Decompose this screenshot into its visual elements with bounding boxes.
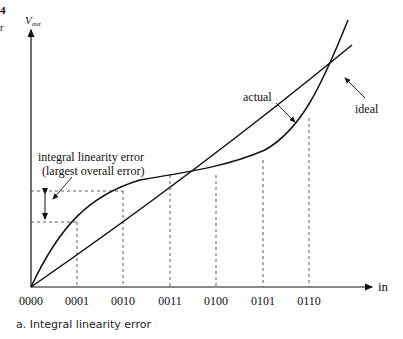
svg-text:0001: 0001	[65, 294, 89, 308]
margin-mark: 4	[0, 4, 6, 16]
ideal-pointer	[345, 78, 365, 98]
x-axis-label: in	[378, 279, 389, 294]
error-pointer	[53, 177, 72, 199]
actual-pointer	[276, 103, 295, 122]
y-axis-label: Vout	[25, 14, 42, 28]
actual-label: actual	[243, 90, 272, 104]
guide-lines	[31, 118, 309, 287]
svg-text:0000: 0000	[19, 294, 43, 308]
margin-mark: r	[0, 22, 4, 33]
svg-text:0100: 0100	[204, 294, 228, 308]
figure-caption: a. Integral linearity error	[16, 318, 151, 331]
error-label-line1: integral linearity error	[38, 150, 144, 164]
integral-linearity-diagram: 4 r Vout in integral linearity error (la…	[0, 0, 403, 339]
x-tick-labels: 0000 0001 0010 0011 0100 0101 0110	[19, 294, 321, 308]
svg-text:0110: 0110	[297, 294, 321, 308]
ideal-label: ideal	[355, 102, 379, 116]
svg-text:0010: 0010	[111, 294, 135, 308]
svg-text:0011: 0011	[158, 294, 182, 308]
svg-text:0101: 0101	[251, 294, 275, 308]
error-label-line2: (largest overall error)	[42, 164, 144, 178]
